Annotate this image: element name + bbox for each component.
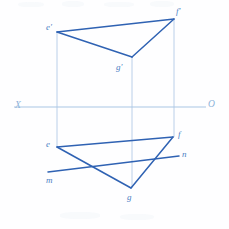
label-e-prime: e': [46, 23, 52, 32]
label-g-prime: g': [116, 63, 122, 72]
edge-ge-prime: [57, 32, 132, 57]
label-axis-o: O: [208, 100, 215, 110]
edge-fg-prime: [132, 19, 174, 57]
edge-fg: [131, 137, 173, 188]
edge-ef: [57, 137, 173, 147]
label-axis-x: X: [15, 101, 21, 111]
drawing-canvas: [0, 0, 229, 229]
label-n: n: [182, 150, 187, 159]
label-g: g: [127, 193, 132, 202]
label-f: f: [178, 130, 181, 139]
edge-ef-prime: [57, 19, 174, 32]
label-e: e: [46, 140, 50, 149]
label-m: m: [46, 176, 53, 185]
projection-diagram: e' f' g' e f g m n X O: [0, 0, 229, 229]
edge-ge: [57, 147, 131, 188]
line-mn: [48, 156, 179, 172]
label-f-prime: f': [176, 7, 180, 16]
